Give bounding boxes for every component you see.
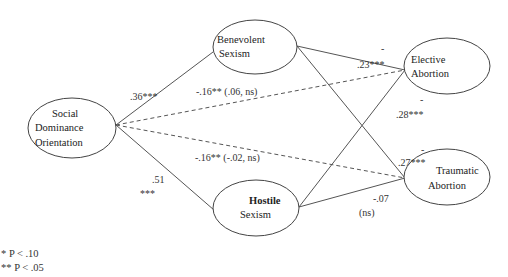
path-diagram: Social Dominance Orientation Benevolent … xyxy=(0,0,508,277)
node-traumatic-line2: Abortion xyxy=(428,180,467,191)
label-benevolent-traumatic: .27*** xyxy=(398,157,426,168)
legend-item-p05: ** P < .05 xyxy=(1,261,44,275)
node-benevolent-line2: Sexism xyxy=(219,48,250,59)
label-sdo-elective: -.16** (.06, ns) xyxy=(196,86,257,98)
label-hostile-elective-sign: - xyxy=(420,94,423,105)
edge-sdo-elective xyxy=(116,70,405,125)
label-hostile-elective: .28*** xyxy=(396,109,424,120)
edge-hostile-traumatic xyxy=(299,178,405,207)
node-sdo-line1: Social xyxy=(52,108,78,119)
edge-sdo-traumatic xyxy=(116,125,405,178)
label-benevolent-elective-sign: - xyxy=(381,43,384,54)
node-sdo-line2: Dominance xyxy=(35,122,84,133)
significance-legend: * P < .10 ** P < .05 xyxy=(1,247,44,275)
legend-item-p10: * P < .10 xyxy=(1,247,44,261)
node-hostile-sexism xyxy=(213,180,299,236)
node-sdo-line3: Orientation xyxy=(35,137,84,148)
label-sdo-hostile: .51 xyxy=(152,174,165,185)
edge-benevolent-traumatic xyxy=(297,46,405,178)
label-benevolent-elective: .23*** xyxy=(357,59,385,70)
label-sdo-benevolent: .36*** xyxy=(130,91,158,102)
node-benevolent-line1: Benevolent xyxy=(217,34,265,45)
node-elective-abortion xyxy=(404,38,490,94)
edge-hostile-elective xyxy=(299,70,405,207)
node-elective-line1: Elective xyxy=(411,54,446,65)
label-sdo-hostile-sig: *** xyxy=(140,188,155,199)
node-hostile-line1: Hostile xyxy=(249,195,281,206)
node-benevolent-sexism xyxy=(213,20,297,74)
node-traumatic-line1: Traumatic xyxy=(436,165,479,176)
edge-sdo-hostile xyxy=(116,125,214,210)
label-hostile-traumatic: -.07 xyxy=(373,193,389,204)
node-elective-line2: Abortion xyxy=(411,68,450,79)
label-benevolent-traumatic-sign: - xyxy=(421,144,424,155)
node-hostile-line2: Sexism xyxy=(240,209,271,220)
label-sdo-traumatic: -.16** (-.02, ns) xyxy=(195,152,260,164)
label-hostile-traumatic-sig: (ns) xyxy=(359,207,375,219)
